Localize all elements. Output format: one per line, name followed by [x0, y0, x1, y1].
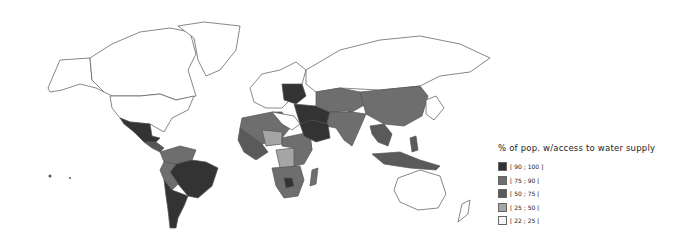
legend-label: [ 25 ; 50 [	[510, 204, 540, 211]
region-zimbabwe[interactable]	[284, 178, 294, 188]
region-philippines[interactable]	[410, 136, 418, 152]
region-central-america[interactable]	[144, 142, 164, 152]
legend-swatch	[498, 162, 507, 171]
legend-label: [ 22 ; 25 [	[510, 217, 540, 224]
legend-item-25-50: [ 25 ; 50 [	[498, 202, 674, 213]
legend-swatch	[498, 216, 507, 225]
region-new-zealand[interactable]	[458, 200, 470, 222]
region-australia[interactable]	[394, 170, 446, 210]
region-sahel[interactable]	[262, 130, 282, 146]
region-usa[interactable]	[110, 94, 194, 132]
legend-item-90-100: [ 90 ; 100 ]	[498, 161, 674, 172]
region-hawaii[interactable]	[49, 175, 52, 178]
legend-label: [ 75 ; 90 [	[510, 177, 540, 184]
legend-item-22-25: [ 22 ; 25 [	[498, 215, 674, 226]
legend-title: % of pop. w/access to water supply	[498, 143, 674, 153]
region-indonesia[interactable]	[372, 152, 440, 170]
legend-swatch	[498, 203, 507, 212]
region-central-asia[interactable]	[316, 88, 366, 112]
legend-swatch	[498, 176, 507, 185]
map-legend: % of pop. w/access to water supply [ 90 …	[498, 143, 674, 229]
region-mongolia-china[interactable]	[360, 86, 428, 126]
legend-swatch	[498, 189, 507, 198]
region-madagascar[interactable]	[310, 168, 318, 186]
region-southeast-asia[interactable]	[370, 124, 392, 146]
legend-item-50-75: [ 50 ; 75 [	[498, 188, 674, 199]
region-japan-korea[interactable]	[426, 96, 444, 120]
legend-label: [ 90 ; 100 ]	[510, 163, 543, 170]
region-russia[interactable]	[306, 36, 490, 92]
legend-item-75-90: [ 75 ; 90 [	[498, 175, 674, 186]
region-canada[interactable]	[90, 28, 196, 100]
legend-label: [ 50 ; 75 [	[510, 190, 540, 197]
region-south-asia[interactable]	[326, 112, 366, 146]
region-central-africa[interactable]	[276, 148, 296, 168]
region-pacific-islands[interactable]	[69, 177, 71, 179]
